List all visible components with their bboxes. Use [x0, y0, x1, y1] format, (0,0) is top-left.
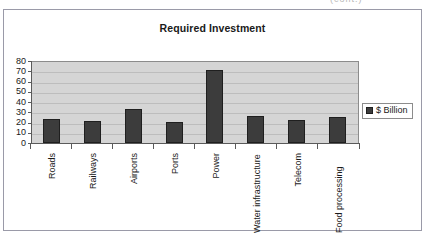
x-axis-label-cell: Airports	[113, 151, 154, 237]
x-axis-label-cell: Ports	[154, 151, 195, 237]
y-axis-tick-label: 40	[16, 98, 26, 107]
x-axis-tick-mark	[235, 144, 236, 149]
x-axis-tick-mark-end	[359, 144, 360, 149]
x-axis-tick-cell	[277, 144, 318, 150]
x-axis-tick-mark	[112, 144, 113, 149]
x-axis-category-label: Ports	[169, 153, 180, 174]
y-axis-tick-label: 50	[16, 87, 26, 96]
x-axis-category-label: Railways	[87, 153, 98, 189]
bar-slot	[72, 62, 113, 143]
x-axis-tick-mark	[317, 144, 318, 149]
plot-area	[31, 61, 359, 143]
bar-slot	[31, 62, 72, 143]
x-axis-label-cell: Water infrastructure	[236, 151, 277, 237]
x-axis-category-label: Food processing	[333, 153, 344, 233]
bar-slot	[276, 62, 317, 143]
x-axis-tick-mark	[30, 144, 31, 149]
x-axis-tick-cell	[31, 144, 72, 150]
legend-square-swatch	[366, 107, 373, 114]
x-axis-tick-mark	[276, 144, 277, 149]
bar-slot	[235, 62, 276, 143]
x-axis-tick-mark	[71, 144, 72, 149]
x-axis-category-labels: RoadsRailwaysAirportsPortsPowerWater inf…	[31, 151, 359, 237]
x-axis-tick-cell	[113, 144, 154, 150]
bar[interactable]	[206, 70, 223, 143]
y-axis-tick-label: 80	[16, 57, 26, 66]
y-axis-tick-label: 10	[16, 128, 26, 137]
x-axis-label-cell: Railways	[72, 151, 113, 237]
x-axis-tick-mark	[194, 144, 195, 149]
x-axis-tick-cell	[72, 144, 113, 150]
x-axis-tick-cell	[236, 144, 277, 150]
x-axis-tick-cell	[318, 144, 359, 150]
bar-slot	[317, 62, 358, 143]
x-axis-tick-mark	[153, 144, 154, 149]
bar[interactable]	[84, 121, 101, 143]
y-axis-line	[31, 61, 32, 144]
y-axis-tick-label: 0	[21, 139, 26, 148]
legend-item-label: $ Billion	[376, 106, 408, 115]
y-axis-tick-labels: 80706050403020100	[4, 56, 31, 148]
bar[interactable]	[125, 109, 142, 143]
chart-frame: Required Investment 80706050403020100 Ro…	[3, 9, 422, 231]
cropped-header-artifact: (cont.)	[330, 0, 420, 5]
x-axis-tick-cell	[195, 144, 236, 150]
chart-title: Required Investment	[4, 22, 421, 34]
bar[interactable]	[247, 116, 264, 143]
y-axis-tick-label: 70	[16, 67, 26, 76]
bar[interactable]	[43, 119, 60, 143]
x-axis-label-cell: Food processing	[318, 151, 359, 237]
x-axis-category-label: Airports	[128, 153, 139, 184]
x-axis-label-cell: Roads	[31, 151, 72, 237]
chart-screenshot: (cont.) Required Investment 807060504030…	[0, 0, 427, 239]
y-axis-tick-label: 20	[16, 118, 26, 127]
bar[interactable]	[288, 120, 305, 143]
x-axis-label-cell: Telecom	[277, 151, 318, 237]
x-axis-category-label: Power	[210, 153, 221, 179]
x-axis-tick-marks	[31, 144, 359, 150]
y-axis-tick-label: 30	[16, 108, 26, 117]
x-axis-label-cell: Power	[195, 151, 236, 237]
bar-slot	[154, 62, 195, 143]
y-axis-tick-label: 60	[16, 77, 26, 86]
bar-slot	[195, 62, 236, 143]
x-axis-category-label: Water infrastructure	[251, 153, 262, 233]
bar-series	[31, 62, 358, 143]
x-axis-category-label: Telecom	[292, 153, 303, 187]
bar[interactable]	[166, 122, 183, 143]
x-axis-tick-cell	[154, 144, 195, 150]
x-axis-category-label: Roads	[46, 153, 57, 179]
bar-slot	[113, 62, 154, 143]
legend: $ Billion	[362, 103, 413, 119]
bar[interactable]	[329, 117, 346, 143]
